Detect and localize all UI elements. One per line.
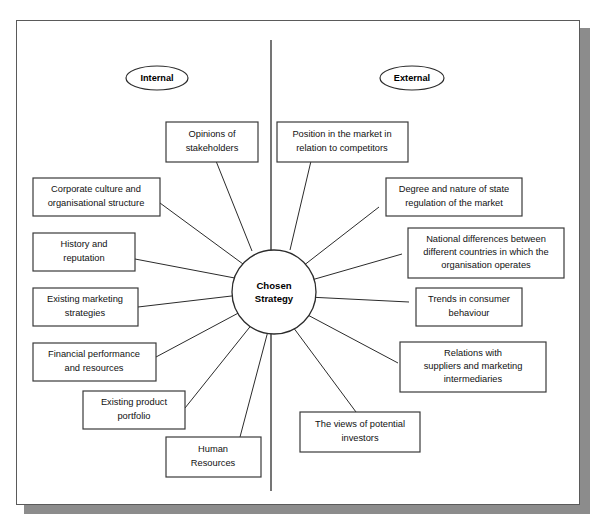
node-line-2: investors <box>341 433 379 443</box>
node-existing-marketing-strategies[interactable]: Existing marketing strategies <box>33 288 138 326</box>
node-consumer-trends[interactable]: Trends in consumer behaviour <box>416 288 522 326</box>
node-line-2: different countries in which the <box>423 247 548 257</box>
spoke-national-differences <box>308 254 402 281</box>
hub-label-line1: Chosen <box>256 280 291 291</box>
spoke-supplier-relations <box>304 313 398 363</box>
node-box <box>166 122 258 162</box>
node-line-2: Resources <box>191 458 236 468</box>
node-line-2: relation to competitors <box>296 143 388 153</box>
node-existing-product-portfolio[interactable]: Existing product portfolio <box>83 391 185 429</box>
node-box <box>300 412 420 452</box>
spoke-corporate-culture <box>160 203 243 264</box>
node-line-3: organisation operates <box>441 260 531 270</box>
chosen-strategy-diagram: Chosen Strategy Internal External Opinio… <box>0 0 605 526</box>
node-state-regulation[interactable]: Degree and nature of state regulation of… <box>386 178 522 216</box>
node-line-2: reputation <box>63 253 104 263</box>
spoke-history-and-reputation <box>135 259 240 279</box>
node-box <box>277 122 408 162</box>
spoke-state-regulation <box>303 207 379 266</box>
pill-internal[interactable]: Internal <box>126 66 188 90</box>
node-box <box>166 437 261 477</box>
node-line-1: Relations with <box>444 348 502 358</box>
node-line-2: stakeholders <box>186 143 239 153</box>
node-line-2: regulation of the market <box>405 198 503 208</box>
node-potential-investors[interactable]: The views of potential investors <box>300 412 420 452</box>
node-human-resources[interactable]: Human Resources <box>166 437 261 477</box>
node-line-1: Corporate culture and <box>51 184 141 194</box>
node-position-in-the-market[interactable]: Position in the market in relation to co… <box>277 122 408 162</box>
diagram-stage: Chosen Strategy Internal External Opinio… <box>0 0 605 526</box>
node-history-and-reputation[interactable]: History and reputation <box>33 233 135 271</box>
node-line-1: Trends in consumer <box>428 294 510 304</box>
node-opinions-of-stakeholders[interactable]: Opinions of stakeholders <box>166 122 258 162</box>
pill-external[interactable]: External <box>380 66 444 90</box>
node-line-2: and resources <box>65 363 124 373</box>
spoke-opinions-of-stakeholders <box>216 161 252 251</box>
node-line-1: Opinions of <box>188 129 235 139</box>
node-national-differences[interactable]: National differences between different c… <box>408 228 564 278</box>
node-line-2: portfolio <box>117 411 150 421</box>
node-line-1: Existing product <box>101 397 168 407</box>
node-line-2: organisational structure <box>48 198 145 208</box>
spoke-human-resources <box>240 331 268 437</box>
spoke-position-in-the-market <box>290 161 311 250</box>
hub-label-line2: Strategy <box>255 293 294 304</box>
node-line-2: suppliers and marketing <box>424 361 523 371</box>
hub-chosen-strategy[interactable]: Chosen Strategy <box>232 250 316 334</box>
node-line-1: The views of potential <box>315 419 405 429</box>
node-line-3: intermediaries <box>444 374 503 384</box>
node-line-1: National differences between <box>426 234 546 244</box>
spoke-existing-marketing <box>138 295 240 307</box>
spoke-consumer-trends <box>308 297 409 302</box>
node-line-1: Position in the market in <box>292 129 391 139</box>
node-line-1: Degree and nature of state <box>399 184 510 194</box>
node-line-2: strategies <box>65 308 106 318</box>
external-label: External <box>394 73 430 83</box>
node-financial-performance[interactable]: Financial performance and resources <box>33 343 156 381</box>
internal-label: Internal <box>140 73 173 83</box>
node-corporate-culture[interactable]: Corporate culture and organisational str… <box>33 178 160 216</box>
node-line-1: Human <box>198 444 228 454</box>
node-line-1: History and <box>60 239 107 249</box>
node-supplier-relations[interactable]: Relations with suppliers and marketing i… <box>400 342 546 392</box>
node-line-1: Existing marketing <box>47 294 123 304</box>
node-line-2: behaviour <box>449 308 490 318</box>
node-line-1: Financial performance <box>48 349 140 359</box>
spoke-potential-investors <box>293 327 356 412</box>
